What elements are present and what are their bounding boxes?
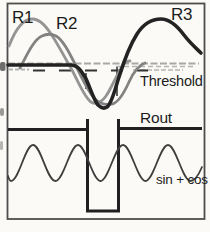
- rout-label: Rout: [140, 109, 173, 126]
- scan-smudge-icon: [0, 62, 6, 71]
- waveform-figure: R1 R2 R3 Threshold Rout sin + cos: [0, 0, 210, 232]
- r1-label: R1: [12, 8, 33, 27]
- sin-cos-label: sin + cos: [156, 172, 208, 187]
- threshold-label: Threshold: [140, 73, 203, 89]
- paper-background: [0, 0, 210, 232]
- r2-label: R2: [56, 14, 77, 33]
- scan-smudge-icon: [0, 141, 3, 150]
- scan-smudge-icon: [0, 108, 4, 116]
- r3-label: R3: [171, 5, 192, 24]
- waveform-canvas: R1 R2 R3 Threshold Rout sin + cos: [0, 0, 210, 232]
